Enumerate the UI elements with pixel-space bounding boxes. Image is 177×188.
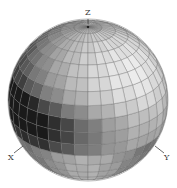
sphere-facet (100, 154, 114, 165)
y-axis-label: Y (163, 153, 170, 162)
y-axis-line (155, 146, 164, 153)
sphere-facet (61, 104, 75, 119)
sphere-facet (48, 115, 61, 131)
sphere-facet (74, 105, 88, 119)
sphere-facet (88, 144, 102, 155)
sphere-facet (88, 65, 99, 78)
sphere-facet (75, 155, 88, 165)
sphere-facet (88, 132, 102, 145)
sphere-facet (88, 164, 100, 172)
sphere-facet (77, 172, 88, 177)
sphere-facet (74, 119, 88, 133)
sphere-facet (114, 102, 128, 118)
sphere-facet (77, 65, 88, 78)
sphere-facet (88, 91, 101, 105)
x-axis-line (14, 146, 23, 153)
sphere-facet (75, 91, 88, 105)
sphere-facet (101, 143, 115, 155)
sphere-facet (102, 131, 116, 145)
sphere-facet (61, 131, 75, 145)
sphere-facet (102, 118, 116, 133)
sphere-facet (62, 90, 76, 105)
north-pole-marker (87, 26, 89, 28)
sphere-facet (101, 104, 115, 119)
sphere-facet (88, 119, 102, 133)
x-axis-label: X (8, 153, 14, 162)
sphere-facet (74, 132, 88, 145)
sphere-facet (62, 154, 76, 165)
sphere-facet (76, 78, 88, 92)
sphere-facet (100, 90, 114, 105)
sphere-facet (61, 118, 75, 133)
sphere-facet (88, 105, 102, 119)
z-axis-label: Z (85, 8, 91, 17)
sphere-facet (74, 144, 88, 155)
sphere-facet (88, 155, 101, 165)
sphere-facet (49, 102, 63, 118)
sphere-facet (115, 115, 128, 131)
sphere-surface (8, 20, 168, 180)
sphere-facet (61, 143, 75, 155)
sphere-figure: Z X Y (0, 0, 177, 188)
sphere-facet (76, 164, 88, 172)
sphere-facet (88, 172, 99, 177)
sphere-facet (88, 78, 100, 92)
